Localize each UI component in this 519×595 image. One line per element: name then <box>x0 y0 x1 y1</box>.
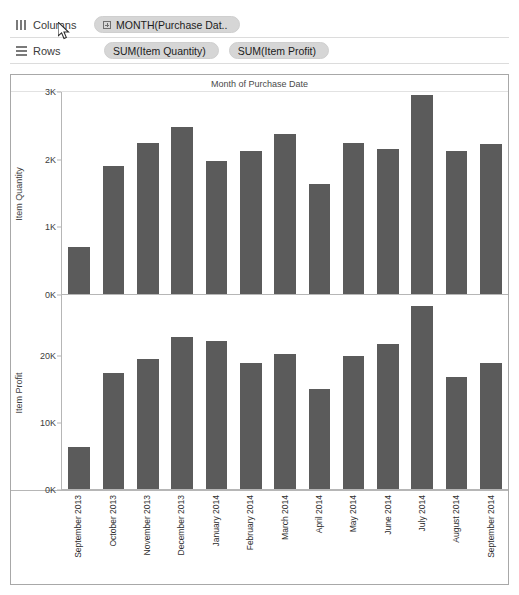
bar-july-2014[interactable] <box>411 95 433 294</box>
y-tick-label: 0K <box>45 485 56 495</box>
bar-slot[interactable] <box>371 295 405 489</box>
chart-pane-item-quantity: Item Quantity 0K1K2K3K <box>11 92 508 295</box>
x-axis-label[interactable]: January 2014 <box>199 491 233 595</box>
bar-june-2014[interactable] <box>377 149 399 294</box>
bar-march-2014[interactable] <box>274 354 296 489</box>
bar-april-2014[interactable] <box>309 389 331 489</box>
bar-slot[interactable] <box>234 92 268 294</box>
pill-label: MONTH(Purchase Dat.. <box>116 19 227 31</box>
bar-september-2014[interactable] <box>480 363 502 489</box>
bar-august-2014[interactable] <box>446 151 468 294</box>
bar-april-2014[interactable] <box>309 184 331 294</box>
bar-slot[interactable] <box>474 92 508 294</box>
bar-slot[interactable] <box>165 92 199 294</box>
y-axis-ticks-item-profit: 0K10K20K <box>27 295 61 490</box>
x-axis-label[interactable]: May 2014 <box>336 491 370 595</box>
x-axis-label[interactable]: June 2014 <box>371 491 405 595</box>
bar-slot[interactable] <box>302 92 336 294</box>
y-tick-label: 2K <box>45 155 56 165</box>
plot-area-item-quantity <box>61 92 508 295</box>
bar-february-2014[interactable] <box>240 363 262 489</box>
chart-title: Month of Purchase Date <box>11 77 508 92</box>
y-tick-label: 20K <box>40 351 56 361</box>
bar-july-2014[interactable] <box>411 306 433 489</box>
bar-slot[interactable] <box>131 92 165 294</box>
pill-label: SUM(Item Quantity) <box>113 45 206 57</box>
bar-slot[interactable] <box>199 92 233 294</box>
x-axis-label[interactable]: November 2013 <box>130 491 164 595</box>
expand-plus-icon[interactable] <box>103 21 111 29</box>
x-axis-label[interactable]: December 2013 <box>164 491 198 595</box>
x-axis-label[interactable]: February 2014 <box>233 491 267 595</box>
rows-shelf[interactable]: Rows SUM(Item Quantity) SUM(Item Profit) <box>10 38 509 64</box>
x-axis-categories: September 2013October 2013November 2013D… <box>61 491 508 595</box>
pill-sum-item-profit[interactable]: SUM(Item Profit) <box>229 42 329 59</box>
x-axis-label[interactable]: April 2014 <box>302 491 336 595</box>
shelf-area: Columns MONTH(Purchase Dat.. Rows SUM(It… <box>10 12 509 64</box>
rows-shelf-label: Rows <box>10 45 94 57</box>
y-axis-title-item-profit: Item Profit <box>11 295 27 490</box>
bar-september-2013[interactable] <box>68 247 90 294</box>
tableau-worksheet: Columns MONTH(Purchase Dat.. Rows SUM(It… <box>0 0 519 595</box>
y-tick-label: 1K <box>45 222 56 232</box>
bar-september-2013[interactable] <box>68 447 90 489</box>
bar-may-2014[interactable] <box>343 143 365 295</box>
rows-label-text: Rows <box>33 45 61 57</box>
visualization-frame: Month of Purchase Date Item Quantity 0K1… <box>10 74 509 585</box>
bar-slot[interactable] <box>439 92 473 294</box>
bar-slot[interactable] <box>62 92 96 294</box>
bar-september-2014[interactable] <box>480 144 502 294</box>
pill-label: SUM(Item Profit) <box>238 45 316 57</box>
chart-pane-item-profit: Item Profit 0K10K20K <box>11 295 508 490</box>
pill-sum-item-quantity[interactable]: SUM(Item Quantity) <box>104 42 219 59</box>
bar-january-2014[interactable] <box>206 161 228 294</box>
plot-area-item-profit <box>61 295 508 490</box>
y-tick-label: 3K <box>45 87 56 97</box>
bar-slot[interactable] <box>371 92 405 294</box>
bar-january-2014[interactable] <box>206 341 228 489</box>
bar-november-2013[interactable] <box>137 143 159 295</box>
pill-month-purchase-date[interactable]: MONTH(Purchase Dat.. <box>94 16 240 33</box>
bar-october-2013[interactable] <box>103 166 125 294</box>
bar-may-2014[interactable] <box>343 356 365 489</box>
bar-slot[interactable] <box>268 295 302 489</box>
bar-slot[interactable] <box>439 295 473 489</box>
bar-slot[interactable] <box>302 295 336 489</box>
bar-slot[interactable] <box>405 92 439 294</box>
x-axis-label[interactable]: August 2014 <box>439 491 473 595</box>
bar-slot[interactable] <box>62 295 96 489</box>
x-axis-label[interactable]: October 2013 <box>95 491 129 595</box>
bar-series-item-quantity <box>62 92 508 294</box>
x-axis: September 2013October 2013November 2013D… <box>11 490 508 595</box>
bar-slot[interactable] <box>96 92 130 294</box>
bar-slot[interactable] <box>337 92 371 294</box>
rows-icon <box>16 46 27 56</box>
bar-november-2013[interactable] <box>137 359 159 489</box>
bar-june-2014[interactable] <box>377 344 399 489</box>
bar-december-2013[interactable] <box>171 337 193 489</box>
bar-february-2014[interactable] <box>240 151 262 294</box>
bar-march-2014[interactable] <box>274 134 296 294</box>
bar-slot[interactable] <box>474 295 508 489</box>
x-axis-spacer <box>11 491 61 595</box>
x-axis-label[interactable]: March 2014 <box>267 491 301 595</box>
bar-slot[interactable] <box>131 295 165 489</box>
bar-slot[interactable] <box>405 295 439 489</box>
columns-icon <box>16 20 27 30</box>
bar-slot[interactable] <box>234 295 268 489</box>
bar-slot[interactable] <box>165 295 199 489</box>
columns-shelf-label: Columns <box>10 19 94 31</box>
bar-slot[interactable] <box>268 92 302 294</box>
bar-series-item-profit <box>62 295 508 489</box>
bar-slot[interactable] <box>199 295 233 489</box>
x-axis-label[interactable]: September 2014 <box>474 491 508 595</box>
y-axis-ticks-item-quantity: 0K1K2K3K <box>27 92 61 295</box>
bar-august-2014[interactable] <box>446 377 468 489</box>
columns-shelf[interactable]: Columns MONTH(Purchase Dat.. <box>10 12 509 38</box>
bar-slot[interactable] <box>337 295 371 489</box>
bar-october-2013[interactable] <box>103 373 125 489</box>
bar-december-2013[interactable] <box>171 127 193 294</box>
x-axis-label[interactable]: September 2013 <box>61 491 95 595</box>
bar-slot[interactable] <box>96 295 130 489</box>
x-axis-label[interactable]: July 2014 <box>405 491 439 595</box>
